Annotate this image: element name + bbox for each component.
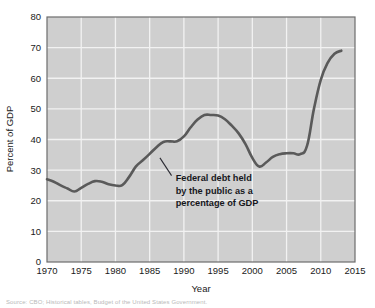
annotation-line: Federal debt held bbox=[176, 173, 252, 183]
y-axis-tick-labels: 01020304050607080 bbox=[30, 11, 41, 267]
x-tick-label: 1995 bbox=[208, 265, 229, 276]
source-note: Source: CBO; Historical tables, Budget o… bbox=[6, 299, 375, 308]
y-tick-label: 40 bbox=[30, 134, 41, 145]
x-tick-label: 2000 bbox=[242, 265, 263, 276]
y-axis-title: Percent of GDP bbox=[4, 106, 15, 173]
y-tick-label: 60 bbox=[30, 73, 41, 84]
federal-debt-line-chart: 01020304050607080 1970197519801985199019… bbox=[0, 0, 375, 308]
x-tick-label: 2005 bbox=[276, 265, 297, 276]
y-tick-label: 30 bbox=[30, 165, 41, 176]
y-tick-label: 10 bbox=[30, 226, 41, 237]
y-tick-label: 20 bbox=[30, 195, 41, 206]
annotation-line: by the public as a bbox=[176, 186, 254, 196]
y-tick-label: 80 bbox=[30, 11, 41, 22]
x-tick-label: 2010 bbox=[310, 265, 331, 276]
chart-figure: 01020304050607080 1970197519801985199019… bbox=[0, 0, 375, 308]
x-tick-label: 1985 bbox=[139, 265, 160, 276]
y-tick-label: 70 bbox=[30, 42, 41, 53]
x-tick-label: 1975 bbox=[71, 265, 92, 276]
x-tick-label: 1970 bbox=[36, 265, 57, 276]
x-tick-label: 2015 bbox=[344, 265, 365, 276]
annotation-line: percentage of GDP bbox=[176, 198, 259, 208]
y-tick-label: 50 bbox=[30, 103, 41, 114]
x-axis-title: Year bbox=[191, 283, 210, 294]
x-axis-tick-labels: 1970197519801985199019952000200520102015 bbox=[36, 265, 365, 276]
x-tick-label: 1980 bbox=[105, 265, 126, 276]
x-tick-label: 1990 bbox=[173, 265, 194, 276]
annotation-label: Federal debt heldby the public as aperce… bbox=[176, 173, 259, 207]
